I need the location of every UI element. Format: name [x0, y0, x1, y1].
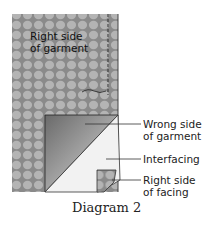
- label-wrong-side-garment: Wrong side of garment: [143, 118, 202, 142]
- label-interfacing: Interfacing: [143, 153, 200, 165]
- diagram-caption: Diagram 2: [72, 200, 141, 215]
- label-right-side-facing: Right side of facing: [143, 174, 196, 198]
- folded-corner: [45, 115, 120, 192]
- label-right-side-garment: Right side of garment: [30, 30, 88, 54]
